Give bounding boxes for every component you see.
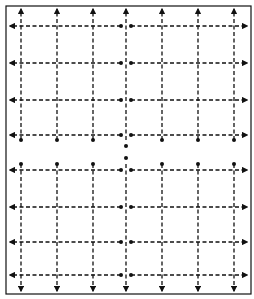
source-dot-down-0 bbox=[19, 162, 23, 166]
source-dot-right-3 bbox=[129, 133, 133, 137]
source-dot-up-1 bbox=[55, 138, 59, 142]
source-dot-right-7 bbox=[129, 273, 133, 277]
source-dot-left-5 bbox=[119, 205, 123, 209]
source-dot-down-2 bbox=[91, 162, 95, 166]
source-dot-left-0 bbox=[119, 24, 123, 28]
center-dot-up bbox=[124, 144, 128, 148]
source-dot-up-4 bbox=[160, 138, 164, 142]
source-dot-right-0 bbox=[129, 24, 133, 28]
source-dot-down-6 bbox=[232, 162, 236, 166]
source-dot-left-7 bbox=[119, 273, 123, 277]
source-dot-up-0 bbox=[19, 138, 23, 142]
center-dot-down bbox=[124, 156, 128, 160]
source-dot-right-6 bbox=[129, 240, 133, 244]
source-dot-left-2 bbox=[119, 98, 123, 102]
source-dot-down-5 bbox=[196, 162, 200, 166]
source-dot-right-4 bbox=[129, 168, 133, 172]
source-dot-right-5 bbox=[129, 205, 133, 209]
grid-lines bbox=[10, 9, 247, 291]
source-dot-down-4 bbox=[160, 162, 164, 166]
source-dot-left-1 bbox=[119, 61, 123, 65]
source-dot-up-2 bbox=[91, 138, 95, 142]
source-dot-left-3 bbox=[119, 133, 123, 137]
source-dot-right-2 bbox=[129, 98, 133, 102]
source-dot-down-1 bbox=[55, 162, 59, 166]
source-dot-left-4 bbox=[119, 168, 123, 172]
source-dot-left-6 bbox=[119, 240, 123, 244]
source-dot-up-5 bbox=[196, 138, 200, 142]
flow-grid-diagram bbox=[0, 0, 254, 299]
source-dot-right-1 bbox=[129, 61, 133, 65]
source-dot-up-6 bbox=[232, 138, 236, 142]
frame-border bbox=[6, 6, 251, 294]
